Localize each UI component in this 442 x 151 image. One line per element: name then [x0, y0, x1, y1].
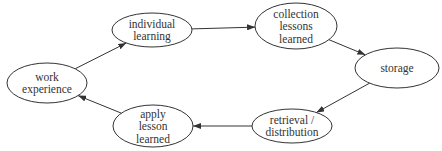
- node-label: work: [35, 71, 59, 83]
- node-storage: storage: [355, 48, 439, 88]
- node-label: learning: [133, 30, 171, 43]
- arrow-individual-to-collection: [192, 27, 255, 29]
- node-label: learned: [136, 133, 170, 145]
- node-label: collection: [273, 8, 319, 20]
- node-retrieval: retrieval /distribution: [252, 109, 332, 143]
- arrow-storage-to-retrieval: [316, 83, 369, 112]
- node-label: distribution: [265, 126, 318, 138]
- arrow-apply-to-work: [78, 96, 121, 114]
- node-individual: individuallearning: [112, 13, 192, 47]
- node-label: retrieval /: [270, 114, 315, 126]
- node-label: apply: [140, 108, 166, 121]
- arrow-collection-to-storage: [329, 40, 365, 55]
- knowledge-cycle-diagram: workexperienceindividuallearningcollecti…: [0, 0, 442, 151]
- node-work: workexperience: [7, 63, 87, 103]
- node-label: storage: [380, 62, 413, 75]
- node-label: experience: [22, 83, 72, 96]
- arrow-work-to-individual: [75, 43, 126, 69]
- node-label: learned: [279, 33, 313, 45]
- node-label: individual: [129, 18, 176, 30]
- node-label: lesson: [139, 120, 168, 132]
- node-collection: collectionlessonslearned: [255, 3, 337, 49]
- nodes: workexperienceindividuallearningcollecti…: [7, 3, 439, 147]
- node-apply: applylessonlearned: [113, 105, 193, 147]
- node-label: lessons: [279, 20, 313, 32]
